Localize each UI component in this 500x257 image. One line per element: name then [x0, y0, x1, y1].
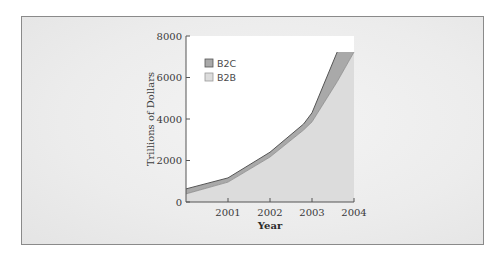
legend-label-b2c: B2C: [217, 58, 237, 69]
xtick-2001: 2001: [215, 207, 240, 218]
ytick-8000: 8000: [157, 31, 182, 42]
legend-swatch-b2c: [205, 59, 213, 67]
chart-svg: 0 2000 4000 6000 8000 2001 2002 2003 200…: [0, 0, 500, 257]
x-axis-title: Year: [257, 220, 283, 231]
legend-label-b2b: B2B: [217, 72, 236, 83]
ytick-6000: 6000: [157, 72, 182, 83]
y-axis-title: Trillions of Dollars: [145, 72, 156, 166]
xtick-2003: 2003: [299, 207, 324, 218]
xtick-2004: 2004: [341, 207, 366, 218]
xtick-2002: 2002: [257, 207, 282, 218]
x-tick-labels: 2001 2002 2003 2004: [215, 207, 366, 218]
ytick-4000: 4000: [157, 114, 182, 125]
y-tick-labels: 0 2000 4000 6000 8000: [157, 31, 182, 208]
ytick-2000: 2000: [157, 155, 182, 166]
ytick-0: 0: [176, 197, 182, 208]
legend-swatch-b2b: [205, 73, 213, 81]
